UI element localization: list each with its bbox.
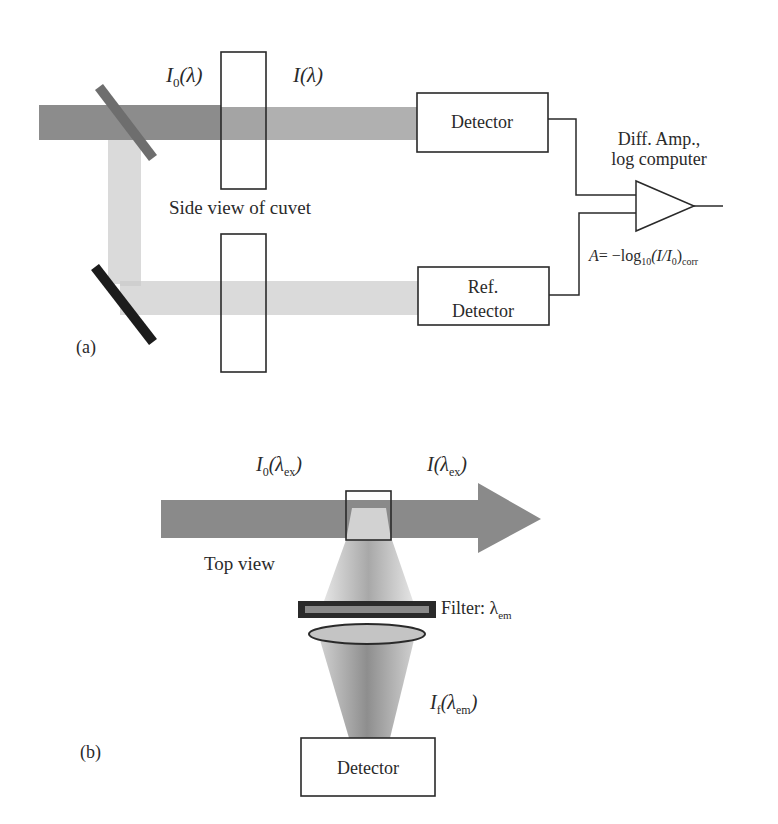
cuvet-caption: Side view of cuvet (169, 197, 312, 218)
amp-label-line1: Diff. Amp., (618, 129, 701, 149)
spectroscopy-diagram: I0(λ) I(λ) Side view of cuvet Detector R… (0, 0, 778, 824)
detector-label: Detector (451, 112, 513, 132)
excitation-transmitted-label: I(λex) (426, 453, 467, 479)
diff-amp-icon (636, 181, 694, 231)
absorbance-equation: A= −log10(I/I0)corr (588, 247, 699, 267)
panel-a-absorbance: I0(λ) I(λ) Side view of cuvet Detector R… (39, 52, 723, 372)
panel-b-fluorescence: I0(λex) I(λex) Top view Filter: λem If(λ… (80, 453, 541, 796)
panel-b-label: (b) (80, 742, 101, 763)
amp-label-line2: log computer (611, 149, 706, 169)
top-view-caption: Top view (204, 553, 275, 574)
emission-cone-lower (320, 640, 414, 738)
ref-detector-label-line1: Ref. (468, 277, 499, 297)
panel-a-label: (a) (76, 337, 96, 358)
filter-label: Filter: λem (441, 598, 512, 621)
emission-in-cuvet (346, 508, 391, 540)
emission-filter-inner (305, 606, 429, 613)
reference-beam-vertical (108, 140, 141, 284)
excitation-incident-label: I0(λex) (255, 453, 302, 479)
ref-detector-label-line2: Detector (452, 301, 514, 321)
sample-beam-in-cuvet (221, 107, 266, 140)
incident-intensity-label: I0(λ) (165, 63, 203, 90)
sample-beam-transmitted (266, 107, 417, 140)
fluorescence-intensity-label: If(λem) (429, 691, 478, 717)
transmitted-intensity-label: I(λ) (292, 63, 323, 87)
reference-beam-corner (120, 281, 141, 286)
reference-beam (120, 281, 418, 315)
fluorescence-detector-label: Detector (337, 758, 399, 778)
